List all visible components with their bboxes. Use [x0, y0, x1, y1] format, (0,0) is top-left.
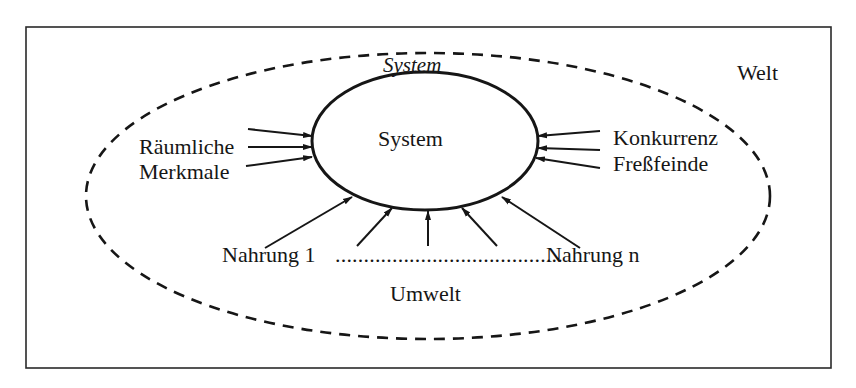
world-frame: [26, 27, 831, 368]
system-boundary-label: System: [383, 55, 441, 76]
world-label: Welt: [737, 62, 778, 84]
right-input-label-line2: Freßfeinde: [613, 153, 708, 175]
system-label: System: [378, 128, 443, 150]
bottom-input-dots: ........................................: [335, 244, 563, 266]
right-input-label-line1: Konkurrenz: [613, 127, 718, 149]
bottom-input-last-label: Nahrung n: [546, 244, 639, 266]
left-input-arrows: [246, 129, 312, 166]
bottom-input-arrows: [265, 197, 580, 248]
left-input-label-line1: Räumliche: [139, 136, 234, 158]
bottom-input-first-label: Nahrung 1: [222, 244, 315, 266]
right-input-arrows: [536, 131, 600, 168]
left-input-label-line2: Merkmale: [139, 161, 229, 183]
environment-label: Umwelt: [390, 283, 461, 305]
